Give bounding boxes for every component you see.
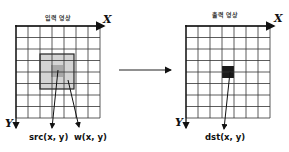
w-label: w(x, y) xyxy=(74,132,107,142)
dst-label: dst(x, y) xyxy=(205,132,245,142)
dst-pointer-arrow xyxy=(224,72,230,129)
input-x-axis-label: X xyxy=(103,13,112,26)
output-grid xyxy=(185,25,274,129)
input-title: 입력 영상 xyxy=(45,13,71,22)
input-grid xyxy=(15,25,104,128)
input-y-axis-label: Y xyxy=(5,117,13,130)
output-y-axis-label: Y xyxy=(175,116,183,129)
output-title: 출력 영상 xyxy=(212,10,238,19)
output-x-axis-label: X xyxy=(274,12,283,25)
diagram-canvas xyxy=(0,0,289,152)
src-label: src(x, y) xyxy=(29,132,68,142)
